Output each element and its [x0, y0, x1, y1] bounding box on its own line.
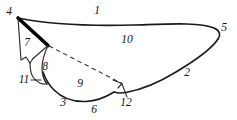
- label-4: 4: [6, 5, 12, 17]
- dashed-separation-line: [49, 46, 122, 84]
- label-11: 11: [19, 73, 30, 85]
- label-7: 7: [24, 36, 31, 48]
- label-9: 9: [77, 77, 83, 89]
- label-2: 2: [184, 66, 190, 78]
- basal-notch-step: [30, 59, 33, 64]
- label-1: 1: [94, 4, 100, 16]
- costal-margin-path: [18, 18, 220, 39]
- notch-lower-hook: [30, 63, 43, 84]
- label-10: 10: [121, 33, 133, 45]
- wing-diagram-figure: 1 2 3 4 5 6 7 8 9 10 11 12: [0, 0, 237, 120]
- label-5: 5: [221, 21, 227, 33]
- posterior-margin-path: [114, 39, 218, 93]
- label-8: 8: [42, 60, 48, 72]
- wing-diagram-svg: 1 2 3 4 5 6 7 8 9 10 11 12: [0, 0, 237, 120]
- label-6: 6: [91, 103, 97, 115]
- junction-12-mark: [113, 80, 122, 88]
- label-12: 12: [120, 96, 132, 108]
- label-3: 3: [59, 96, 66, 108]
